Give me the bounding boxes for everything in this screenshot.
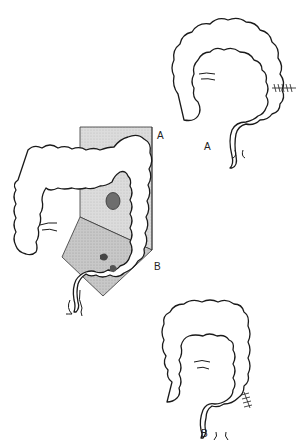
region-b-label: B xyxy=(154,261,161,272)
postop-colon-a-group: A xyxy=(172,18,296,168)
colon-resection-diagram: A B A B xyxy=(0,0,299,443)
preop-colon-group: A B xyxy=(14,127,164,316)
anastomosis-suture-b xyxy=(241,392,252,408)
colon-outline-result-a xyxy=(172,18,284,168)
colon-outline-result-b xyxy=(162,300,250,438)
region-a-label: A xyxy=(157,130,164,141)
tumor-lesion xyxy=(106,193,120,210)
result-a-label: A xyxy=(204,141,211,152)
postop-colon-b-group: B xyxy=(162,300,252,440)
result-b-label: B xyxy=(201,428,208,439)
